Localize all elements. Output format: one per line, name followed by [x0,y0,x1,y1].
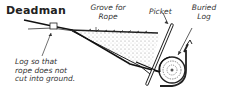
grove-label: Grove for Rope [87,4,129,21]
log-note-line: cut into ground. [15,75,75,84]
diagram-title: Deadman [6,4,66,17]
picket-label: Picket [149,8,172,17]
buried-log-label-line: Log [188,13,220,22]
grove-label-line: Rope [87,13,129,22]
log-note-label: Log so that rope does not cut into groun… [15,58,75,84]
log-arrow [42,33,51,56]
trench-soil [72,30,160,70]
deadman-diagram: Deadman Grove for Rope Picket Buried Log… [0,0,227,91]
buried-log-label: Buried Log [188,4,220,21]
surface-log [50,23,57,29]
